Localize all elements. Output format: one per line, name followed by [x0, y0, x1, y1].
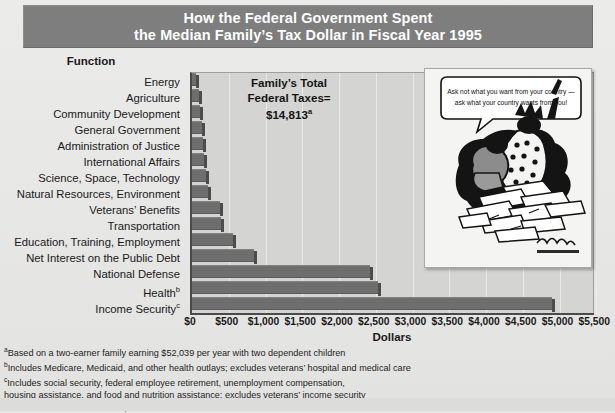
footnote: bIncludes Medicare, Medicaid, and other …: [4, 359, 564, 374]
x-tick-label: $1,000: [248, 316, 280, 327]
chart-title-line2: the Median Family’s Tax Dollar in Fiscal…: [134, 27, 482, 44]
x-tick-label: $5,500: [579, 316, 611, 327]
category-label: Net Interest on the Public Debt: [0, 250, 184, 266]
function-column-header: Function: [0, 55, 182, 70]
bar-shadow: [204, 155, 207, 168]
bar-shadow: [220, 203, 223, 216]
category-label: Administration of Justice: [0, 138, 184, 154]
category-label: Community Development: [0, 106, 184, 122]
category-label: Natural Resources, Environment: [0, 186, 184, 202]
bar-shadow: [202, 123, 205, 136]
category-label: National Defense: [0, 266, 184, 282]
footnote-text: Based on a two-earner family earning $52…: [8, 348, 346, 358]
category-label: International Affairs: [0, 154, 184, 170]
bar-shadow: [378, 283, 381, 296]
bar: [192, 265, 370, 278]
x-axis-line: [190, 313, 594, 315]
x-tick-label: $3,500: [432, 316, 464, 327]
bar-shadow: [199, 91, 202, 104]
bar-shadow: [552, 299, 555, 312]
category-label: Transportation: [0, 218, 184, 234]
category-label: Agriculture: [0, 90, 184, 106]
category-label: Energy: [0, 74, 184, 90]
x-tick-label: $2,500: [358, 316, 390, 327]
total-taxes-line1: Family’s Total: [214, 76, 364, 91]
category-footnote-marker: c: [176, 301, 180, 310]
x-axis-title: Dollars: [190, 331, 594, 343]
total-taxes-annotation: Family’s Total Federal Taxes= $14,813a: [214, 76, 364, 122]
total-taxes-value: $14,813a: [214, 105, 364, 122]
bar: [192, 201, 220, 214]
chart-title-line1: How the Federal Government Spent: [134, 10, 482, 27]
category-footnote-marker: b: [176, 285, 180, 294]
bar: [192, 105, 200, 118]
category-label: Income Securityc: [0, 298, 184, 314]
category-label: Education, Training, Employment: [0, 234, 184, 250]
x-tick-label: $3,000: [395, 316, 427, 327]
bar: [192, 249, 254, 262]
footnote-text: Includes social security, federal employ…: [7, 379, 344, 389]
gridline: [596, 73, 597, 314]
bar: [192, 217, 221, 230]
footnote: cIncludes social security, federal emplo…: [4, 374, 564, 389]
x-tick-label: $5,000: [542, 316, 574, 327]
category-label: Veterans’ Benefits: [0, 202, 184, 218]
x-tick-label: $0: [184, 316, 195, 327]
category-label: Science, Space, Technology: [0, 170, 184, 186]
bar-shadow: [200, 107, 203, 120]
cartoon-illustration: Ask not what you want from your country …: [425, 69, 591, 267]
bar: [192, 121, 202, 134]
bar-shadow: [370, 267, 373, 280]
footnote-text: Includes Medicare, Medicaid, and other h…: [8, 363, 411, 373]
chart-title-banner: How the Federal Government Spent the Med…: [23, 5, 593, 48]
bar-shadow: [206, 171, 209, 184]
bar: [192, 89, 199, 102]
bar: [192, 153, 204, 166]
total-taxes-line2: Federal Taxes=: [214, 91, 364, 106]
bottom-strip: [0, 398, 615, 411]
bar-row: [192, 281, 596, 297]
bar: [192, 281, 378, 294]
bar: [192, 169, 206, 182]
category-label: Healthb: [0, 282, 184, 298]
bar-shadow: [254, 251, 257, 264]
cartoon-caption-line2: ask what your country wants from you!: [455, 99, 568, 107]
bar-shadow: [208, 187, 211, 200]
x-tick-label: $500: [215, 316, 238, 327]
bar: [192, 297, 552, 310]
x-tick-label: $2,000: [321, 316, 353, 327]
bar-shadow: [233, 235, 236, 248]
x-tick-label: $4,500: [505, 316, 537, 327]
footnote: aBased on a two-earner family earning $5…: [4, 344, 564, 359]
bar-shadow: [196, 75, 199, 88]
bar: [192, 233, 233, 246]
category-label-list: EnergyAgricultureCommunity DevelopmentGe…: [0, 74, 184, 314]
category-label: General Government: [0, 122, 184, 138]
editorial-cartoon-panel: Ask not what you want from your country …: [424, 68, 592, 268]
bar-shadow: [203, 139, 206, 152]
x-axis-tick-labels: $0$500$1,000$1,500$2,000$2,500$3,000$3,5…: [0, 316, 615, 332]
bar-row: [192, 297, 596, 313]
x-tick-label: $1,500: [285, 316, 317, 327]
bar: [192, 185, 208, 198]
bar-shadow: [221, 219, 224, 232]
x-tick-label: $4,000: [468, 316, 500, 327]
bar: [192, 137, 203, 150]
